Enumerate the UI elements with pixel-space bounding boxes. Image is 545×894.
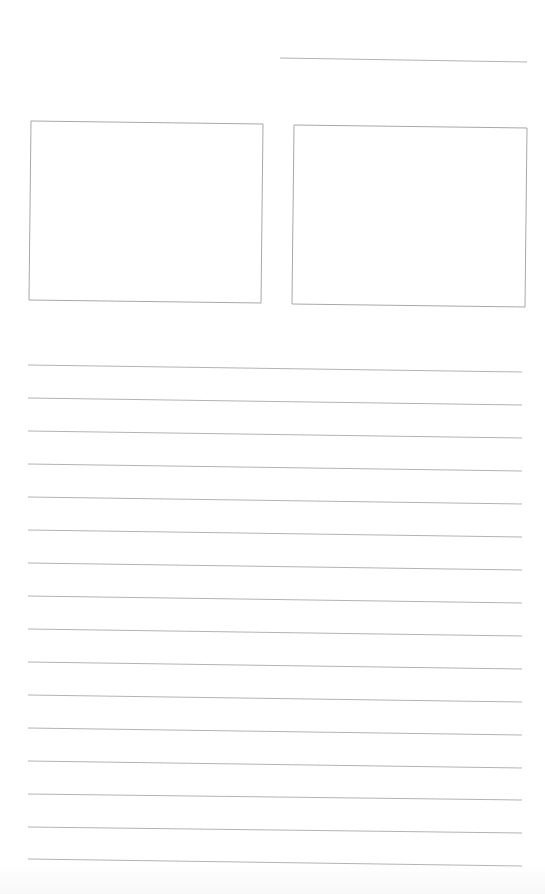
- writing-line-8[interactable]: [28, 596, 522, 603]
- name-line[interactable]: [280, 58, 527, 62]
- scan-shadow: [0, 864, 545, 894]
- writing-line-10[interactable]: [28, 662, 522, 669]
- writing-line-3[interactable]: [28, 431, 522, 438]
- picture-box-left[interactable]: [29, 121, 263, 303]
- writing-line-9[interactable]: [28, 629, 522, 636]
- writing-line-13[interactable]: [28, 761, 522, 768]
- writing-line-5[interactable]: [28, 497, 522, 504]
- writing-line-12[interactable]: [28, 728, 522, 735]
- writing-line-4[interactable]: [28, 464, 522, 471]
- writing-line-15[interactable]: [28, 827, 522, 833]
- writing-line-2[interactable]: [28, 398, 522, 405]
- writing-line-1[interactable]: [28, 365, 522, 372]
- writing-line-6[interactable]: [28, 530, 522, 537]
- writing-line-11[interactable]: [28, 695, 522, 702]
- writing-line-7[interactable]: [28, 563, 522, 570]
- worksheet-page: [0, 0, 545, 894]
- picture-box-right[interactable]: [292, 125, 527, 307]
- writing-line-14[interactable]: [28, 794, 522, 800]
